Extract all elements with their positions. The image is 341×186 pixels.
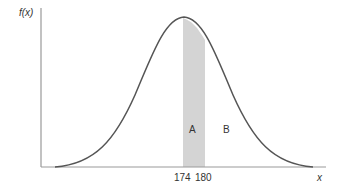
region-b-label: B xyxy=(223,124,230,135)
region-a-label: A xyxy=(189,124,196,135)
x-axis-label: x xyxy=(316,172,323,183)
tick-174: 174 xyxy=(174,172,191,183)
y-axis-label: f(x) xyxy=(19,7,33,18)
tick-180: 180 xyxy=(195,172,212,183)
normal-curve-diagram: f(x) x 174 180 A B xyxy=(0,0,341,186)
shaded-region-a xyxy=(183,18,205,167)
